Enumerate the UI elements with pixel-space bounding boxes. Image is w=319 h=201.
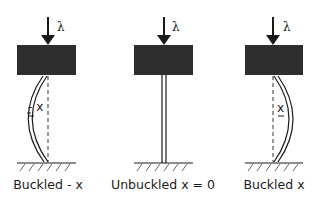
load-symbol: λ <box>283 20 291 34</box>
panel-buckled-right: λ x Buckled x <box>243 17 304 192</box>
load-arrow-icon <box>157 17 171 45</box>
load-symbol: λ <box>172 20 180 34</box>
ground-hatch <box>134 163 193 171</box>
displacement-label: - x <box>28 100 43 114</box>
panel-caption: Unbuckled x = 0 <box>111 177 215 192</box>
ground-hatch <box>245 163 303 171</box>
displacement-label: x <box>277 101 284 115</box>
buckled-column <box>274 76 293 162</box>
load-symbol: λ <box>57 20 65 34</box>
mass-block <box>134 45 193 75</box>
mass-block <box>245 45 303 75</box>
panel-caption: Buckled - x <box>13 177 83 192</box>
buckling-diagram: λ - x Buckled - x λ <box>0 0 319 201</box>
buckled-column <box>28 76 48 162</box>
ground-hatch <box>17 163 76 171</box>
load-arrow-icon <box>266 17 280 45</box>
panel-unbuckled: λ Unbuckled x = 0 <box>111 17 215 192</box>
panel-buckled-left: λ - x Buckled - x <box>13 17 83 192</box>
mass-block <box>17 45 76 75</box>
panel-caption: Buckled x <box>243 177 304 192</box>
straight-column <box>162 75 166 163</box>
load-arrow-icon <box>41 17 55 45</box>
